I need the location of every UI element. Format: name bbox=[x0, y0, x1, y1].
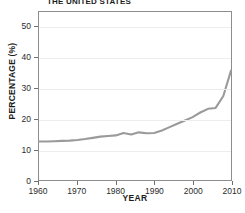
data-series-line bbox=[39, 12, 231, 180]
x-axis-label: YEAR bbox=[38, 193, 232, 203]
y-tick-label: 30 bbox=[14, 84, 31, 92]
gridline bbox=[39, 120, 231, 121]
gridline bbox=[39, 58, 231, 59]
y-tick-label: 0 bbox=[14, 177, 31, 185]
gridline bbox=[39, 151, 231, 152]
x-tick-mark bbox=[116, 181, 117, 185]
y-tick-label: 10 bbox=[14, 146, 31, 154]
x-tick-mark bbox=[193, 181, 194, 185]
y-tick-label: 40 bbox=[14, 53, 31, 61]
gridline bbox=[39, 27, 231, 28]
gridline bbox=[39, 89, 231, 90]
x-tick-mark bbox=[232, 181, 233, 185]
y-tick-label: 20 bbox=[14, 115, 31, 123]
x-tick-mark bbox=[154, 181, 155, 185]
x-tick-mark bbox=[38, 181, 39, 185]
plot-area bbox=[38, 11, 232, 181]
x-tick-mark bbox=[77, 181, 78, 185]
y-tick-label: 50 bbox=[14, 22, 31, 30]
y-axis-label: PERCENTAGE (%) bbox=[7, 38, 17, 124]
chart-title: THE UNITED STATES bbox=[47, 0, 237, 6]
chart-figure: THE UNITED STATES PERCENTAGE (%) 0102030… bbox=[0, 0, 245, 213]
